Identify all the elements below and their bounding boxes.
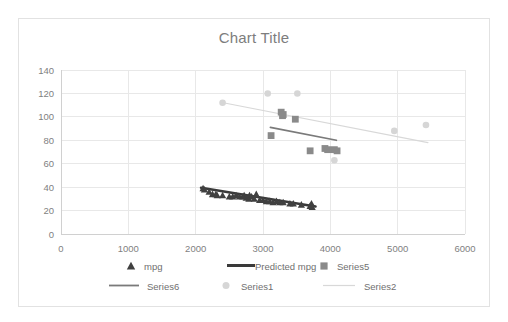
data-point-series1 (331, 157, 338, 164)
chart-frame: Chart Title 0204060801001201400100020003… (18, 18, 490, 307)
data-point-series5 (268, 132, 275, 139)
data-point-series1 (219, 100, 226, 107)
legend-label-series5[interactable]: Series5 (337, 261, 369, 272)
legend-label-mpg[interactable]: mpg (144, 261, 162, 272)
y-axis-tick-label: 60 (43, 158, 54, 169)
data-point-series1 (294, 90, 301, 97)
legend-label-predicted-mpg[interactable]: Predicted mpg (255, 261, 316, 272)
data-point-series5 (307, 147, 314, 154)
y-axis-tick-label: 100 (38, 111, 54, 122)
legend-label-series2[interactable]: Series2 (364, 281, 396, 292)
y-axis-tick-label: 40 (43, 182, 54, 193)
x-axis-tick-label: 6000 (454, 243, 475, 254)
data-point-series1 (391, 128, 398, 135)
legend-label-series1[interactable]: Series1 (241, 281, 273, 292)
y-axis-tick-label: 80 (43, 135, 54, 146)
scatter-plot: 0204060801001201400100020003000400050006… (19, 19, 489, 306)
data-point-series5 (334, 147, 341, 154)
data-point-series5 (292, 116, 299, 123)
x-axis-tick-label: 5000 (387, 243, 408, 254)
data-point-mpg (253, 191, 260, 198)
x-axis-tick-label: 4000 (320, 243, 341, 254)
legend-marker-mpg (127, 262, 135, 270)
y-axis-tick-label: 0 (49, 229, 54, 240)
y-axis-tick-label: 20 (43, 205, 54, 216)
legend-marker-series5 (320, 262, 327, 269)
x-axis-tick-label: 3000 (252, 243, 273, 254)
y-axis-tick-label: 120 (38, 88, 54, 99)
data-point-series1 (264, 90, 271, 97)
series-line-series6 (270, 127, 336, 140)
legend-marker-series1 (223, 282, 230, 289)
legend-label-series6[interactable]: Series6 (147, 281, 179, 292)
y-axis-tick-label: 140 (38, 65, 54, 76)
x-axis-tick-label: 1000 (118, 243, 139, 254)
data-point-series5 (280, 111, 287, 118)
x-axis-tick-label: 2000 (185, 243, 206, 254)
x-axis-tick-label: 0 (58, 243, 63, 254)
data-point-series5 (324, 146, 331, 153)
data-point-series1 (423, 122, 430, 129)
